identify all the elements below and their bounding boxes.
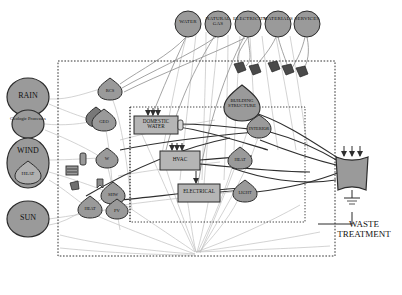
node-services[interactable] — [294, 11, 320, 37]
box-domestic-water-port — [178, 120, 183, 130]
node-sun[interactable] — [7, 201, 49, 237]
waste-treatment-symbol[interactable] — [336, 157, 368, 204]
input-nodes-top — [175, 11, 320, 37]
boundary-markers — [234, 61, 308, 77]
node-building-structure[interactable] — [224, 85, 260, 121]
box-domestic-water[interactable] — [134, 116, 178, 134]
marker-1-icon — [234, 62, 246, 73]
marker-4-icon — [282, 64, 294, 75]
marker-5-icon — [296, 66, 308, 77]
icon-arrow-2 — [97, 179, 103, 188]
box-electrical[interactable] — [178, 184, 220, 202]
node-heat-zone[interactable] — [228, 147, 252, 169]
input-nodes-left — [7, 78, 49, 237]
node-heat-small[interactable] — [78, 196, 102, 218]
node-w[interactable] — [96, 148, 118, 168]
icon-tag-1 — [80, 153, 86, 165]
node-natural-gas[interactable] — [205, 11, 231, 37]
box-hvac[interactable] — [160, 151, 200, 170]
icon-bars — [66, 166, 78, 175]
icon-arrow-1 — [70, 181, 79, 190]
marker-2-icon — [249, 64, 261, 75]
node-materials[interactable] — [265, 11, 291, 37]
node-electricity[interactable] — [235, 11, 261, 37]
node-water[interactable] — [175, 11, 201, 37]
marker-3-icon — [268, 61, 280, 72]
node-light-zone[interactable] — [233, 180, 257, 202]
node-geologic-processes[interactable] — [12, 110, 44, 138]
node-rcs[interactable] — [98, 78, 122, 100]
diagram-canvas: WATER NATURAL GAS ELECTRICITY MATERIALS … — [0, 0, 402, 295]
diagram-svg — [0, 0, 402, 295]
